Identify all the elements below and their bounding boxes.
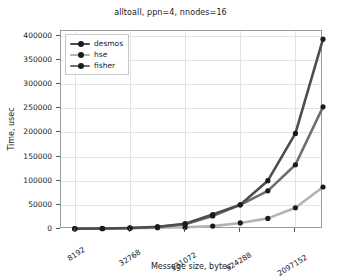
data-point-desmos [320, 37, 325, 42]
y-tick-label: 350000 [23, 54, 52, 63]
y-tick-label: 400000 [23, 30, 52, 39]
legend-marker-icon [70, 50, 90, 59]
data-point-desmos [210, 212, 215, 217]
data-point-hse [238, 220, 243, 225]
data-point-fisher [265, 188, 270, 193]
data-point-hse [265, 216, 270, 221]
data-point-desmos [265, 178, 270, 183]
y-tick-label: 0 [47, 224, 52, 233]
x-axis-title: Message size, bytes [60, 262, 322, 271]
data-point-fisher [293, 162, 298, 167]
y-tick-label: 200000 [23, 127, 52, 136]
x-tick-mark [184, 228, 185, 232]
x-tick-mark [294, 228, 295, 232]
chart-title: alltoall, ppn=4, nnodes=16 [0, 8, 341, 17]
data-point-desmos [183, 221, 188, 226]
legend-marker-icon [70, 39, 90, 48]
y-tick-label: 250000 [23, 103, 52, 112]
chart-figure: alltoall, ppn=4, nnodes=16 Time, usec 40… [0, 0, 341, 280]
legend-marker-icon [70, 61, 90, 70]
legend-label: desmos [94, 38, 123, 49]
x-tick-mark [129, 228, 130, 232]
legend-label: hse [94, 49, 107, 60]
data-point-desmos [293, 131, 298, 136]
y-tick-label: 300000 [23, 79, 52, 88]
data-point-hse [320, 184, 325, 189]
legend-item-fisher[interactable]: fisher [70, 60, 123, 71]
legend-item-hse[interactable]: hse [70, 49, 123, 60]
y-axis: 4000003500003000002500002000001500001000… [0, 30, 60, 228]
legend-item-desmos[interactable]: desmos [70, 38, 123, 49]
data-point-fisher [320, 104, 325, 109]
legend-label: fisher [94, 60, 115, 71]
x-tick-mark [74, 228, 75, 232]
chart-legend: desmoshsefisher [65, 34, 129, 75]
y-tick-label: 150000 [23, 151, 52, 160]
x-axis: 8192327681310725242882097152 [60, 228, 322, 280]
y-tick-label: 50000 [28, 199, 52, 208]
x-tick-mark [239, 228, 240, 232]
series-line-hse [75, 187, 323, 229]
data-point-desmos [238, 202, 243, 207]
data-point-hse [293, 205, 298, 210]
x-tick-label: 8192 [65, 245, 86, 263]
y-tick-label: 100000 [23, 175, 52, 184]
